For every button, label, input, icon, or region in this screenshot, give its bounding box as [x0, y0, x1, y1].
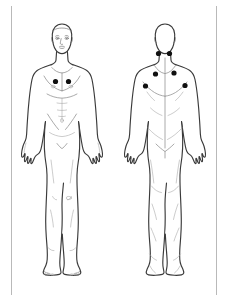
marker-front-chest-left[interactable]: [66, 79, 71, 84]
front-groin-line: [57, 144, 67, 149]
back-head: [155, 24, 174, 54]
marker-back-upper-right[interactable]: [153, 71, 158, 76]
back-leg-left: [165, 122, 183, 276]
marker-back-upper-left[interactable]: [171, 70, 176, 75]
human-figure-back[interactable]: [124, 24, 205, 275]
marker-back-scapula-right[interactable]: [143, 83, 148, 88]
marker-back-scapula-left[interactable]: [182, 83, 187, 88]
marker-back-neck-right[interactable]: [156, 51, 161, 56]
marker-back-neck-left[interactable]: [167, 51, 172, 56]
body-figures-canvas: [0, 0, 228, 303]
body-diagram-page: [0, 0, 228, 303]
front-lower-body: [43, 122, 63, 276]
front-body-outline: [52, 24, 71, 54]
marker-front-chest-right[interactable]: [53, 79, 58, 84]
human-figure-front[interactable]: [21, 24, 102, 275]
